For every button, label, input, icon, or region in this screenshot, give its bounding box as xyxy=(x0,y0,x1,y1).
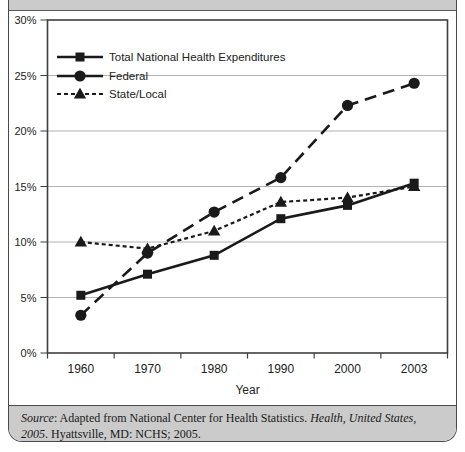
source-note-segment: Source xyxy=(21,411,54,425)
circle-marker xyxy=(275,172,286,183)
circle-marker xyxy=(75,310,86,321)
circle-marker xyxy=(209,206,220,217)
triangle-marker xyxy=(75,236,87,247)
x-tick-label: 1980 xyxy=(201,362,228,376)
circle-marker xyxy=(342,100,353,111)
legend-label: Total National Health Expenditures xyxy=(109,51,286,63)
expenditures-line-chart: 0%5%10%15%20%25%30%196019701980199020002… xyxy=(9,11,455,405)
series-total-national-health-expenditures xyxy=(76,179,418,300)
figure-card: 0%5%10%15%20%25%30%196019701980199020002… xyxy=(8,0,457,442)
source-note-segment: : Adapted from National Center for Healt… xyxy=(54,411,310,425)
square-marker xyxy=(343,201,352,210)
y-tick-label: 5% xyxy=(21,292,37,304)
source-note-segment: . Hyattsville, MD: NCHS; 2005. xyxy=(45,427,201,441)
x-tick-label: 1960 xyxy=(67,362,94,376)
y-axis: 0%5%10%15%20%25%30% xyxy=(14,14,47,359)
square-marker xyxy=(76,291,85,300)
x-tick-label: 1990 xyxy=(267,362,294,376)
circle-marker xyxy=(409,78,420,89)
triangle-marker xyxy=(74,88,86,99)
x-tick-label: 1970 xyxy=(134,362,161,376)
header-strip xyxy=(9,0,456,11)
legend-label: State/Local xyxy=(109,88,167,100)
square-marker xyxy=(76,53,85,62)
chart-area: 0%5%10%15%20%25%30%196019701980199020002… xyxy=(9,11,456,405)
x-tick-label: 2000 xyxy=(334,362,361,376)
square-marker xyxy=(210,251,219,260)
y-tick-label: 10% xyxy=(14,236,36,248)
y-tick-label: 25% xyxy=(14,70,36,82)
x-tick-label: 2003 xyxy=(401,362,428,376)
x-axis-title: Year xyxy=(235,383,259,397)
x-axis: 196019701980199020002003Year xyxy=(48,353,448,397)
triangle-marker xyxy=(341,191,353,202)
circle-marker xyxy=(74,70,85,81)
gridlines xyxy=(48,76,448,298)
y-tick-label: 0% xyxy=(21,347,37,359)
source-note: Source: Adapted from National Center for… xyxy=(21,410,444,442)
square-marker xyxy=(276,214,285,223)
legend-label: Federal xyxy=(109,70,148,82)
square-marker xyxy=(143,270,152,279)
y-tick-label: 30% xyxy=(14,14,36,26)
y-tick-label: 20% xyxy=(14,125,36,137)
source-strip: Source: Adapted from National Center for… xyxy=(9,405,456,442)
y-tick-label: 15% xyxy=(14,181,36,193)
page: 0%5%10%15%20%25%30%196019701980199020002… xyxy=(0,0,465,452)
